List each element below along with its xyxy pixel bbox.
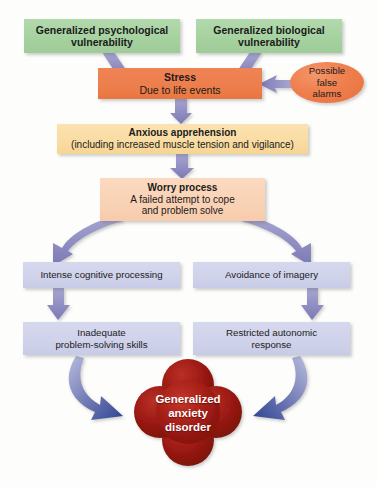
node-title: Avoidance of imagery bbox=[225, 269, 318, 280]
connector-intense-cognitive-to-inadequate-problem-solving bbox=[47, 288, 70, 320]
connector-restricted-autonomic-to-outcome bbox=[253, 356, 307, 420]
node-title: Worry process bbox=[148, 182, 218, 194]
node-title: Generalized biological bbox=[213, 24, 324, 36]
node-stress[interactable]: Stress Due to life events bbox=[98, 68, 262, 99]
node-line-1: Inadequate bbox=[77, 327, 126, 338]
connector-anxious-apprehension-to-worry-process bbox=[170, 153, 194, 179]
node-inadequate-problem-solving-skills[interactable]: Inadequate problem-solving skills bbox=[23, 322, 180, 355]
connector-false-alarms-to-stress bbox=[259, 75, 292, 93]
node-title: Anxious apprehension bbox=[129, 127, 237, 139]
connector-avoidance-imagery-to-restricted-autonomic bbox=[301, 288, 324, 320]
node-line-2: response bbox=[252, 339, 292, 350]
node-subtitle-line-2: and problem solve bbox=[142, 205, 224, 217]
node-subtitle: (including increased muscle tension and … bbox=[71, 139, 294, 151]
false-alarms-line-1: Possible bbox=[309, 65, 345, 77]
diagram-canvas: Generalized psychological vulnerability … bbox=[0, 0, 377, 487]
node-intense-cognitive-processing[interactable]: Intense cognitive processing bbox=[23, 262, 180, 288]
node-subtitle-line-1: A failed attempt to cope bbox=[130, 194, 235, 206]
node-line-2: problem-solving skills bbox=[55, 339, 147, 350]
node-subtitle: vulnerability bbox=[71, 36, 133, 48]
connector-stress-to-anxious-apprehension bbox=[170, 98, 192, 124]
false-alarms-line-2: false bbox=[309, 77, 345, 89]
connector-inadequate-problem-solving-to-outcome bbox=[69, 356, 123, 420]
node-title: Generalized psychological bbox=[36, 24, 168, 36]
node-subtitle: vulnerability bbox=[238, 36, 300, 48]
connector-worry-process-to-avoidance-imagery bbox=[241, 214, 311, 266]
node-title: Intense cognitive processing bbox=[40, 269, 162, 280]
node-anxious-apprehension[interactable]: Anxious apprehension (including increase… bbox=[57, 124, 308, 154]
node-generalized-psychological-vulnerability[interactable]: Generalized psychological vulnerability bbox=[24, 19, 180, 53]
node-generalized-biological-vulnerability[interactable]: Generalized biological vulnerability bbox=[196, 19, 342, 53]
connector-worry-process-to-intense-cognitive bbox=[53, 214, 123, 266]
node-avoidance-of-imagery[interactable]: Avoidance of imagery bbox=[193, 262, 350, 288]
false-alarms-line-3: alarms bbox=[309, 88, 345, 100]
node-restricted-autonomic-response[interactable]: Restricted autonomic response bbox=[193, 322, 350, 355]
node-possible-false-alarms[interactable]: Possible false alarms bbox=[290, 62, 364, 103]
node-line-1: Restricted autonomic bbox=[226, 327, 317, 338]
node-subtitle: Due to life events bbox=[139, 84, 220, 96]
node-worry-process[interactable]: Worry process A failed attempt to cope a… bbox=[100, 178, 265, 221]
outcome-clover-shape bbox=[134, 359, 242, 466]
node-title: Stress bbox=[164, 71, 196, 83]
